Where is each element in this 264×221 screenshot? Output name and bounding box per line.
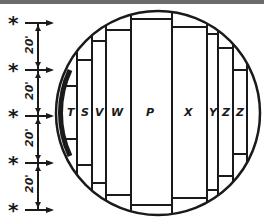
asterisk-icon: * xyxy=(8,151,19,175)
board-label-p: P xyxy=(146,106,154,119)
arrow-right-icon xyxy=(46,160,54,166)
interval-label-4: 20' xyxy=(23,174,36,193)
scale-marker-4 xyxy=(25,160,54,166)
arrow-right-icon xyxy=(46,67,54,73)
arrow-right-icon xyxy=(46,20,54,26)
board-label-v: V xyxy=(95,106,105,119)
board-label-s: S xyxy=(81,106,89,119)
arrow-right-icon xyxy=(46,207,54,213)
board-label-t: T xyxy=(67,106,76,119)
asterisk-icon: * xyxy=(8,11,19,35)
interval-label-2: 20' xyxy=(23,81,36,100)
scale-marker-5 xyxy=(25,207,54,213)
arrow-right-icon xyxy=(46,113,54,119)
board-label-x: X xyxy=(183,106,193,119)
board-label-z2: Z xyxy=(235,106,245,119)
board-label-z1: Z xyxy=(221,106,231,119)
interval-labels: 20' 20' 20' 20' xyxy=(23,35,36,193)
interval-label-3: 20' xyxy=(23,128,36,147)
asterisk-icon: * xyxy=(8,198,19,221)
scale-marker-3 xyxy=(25,113,54,119)
asterisk-icon: * xyxy=(8,58,19,82)
interval-label-1: 20' xyxy=(23,35,36,54)
log-cutting-diagram: * * * * * 20' 20' 20' 20' xyxy=(0,0,264,221)
asterisk-markers: * * * * * xyxy=(8,11,19,221)
scale-marker-1 xyxy=(25,20,54,26)
asterisk-icon: * xyxy=(8,104,19,128)
scale-marker-2 xyxy=(25,67,54,73)
board-label-y: Y xyxy=(209,106,218,119)
board-label-w: W xyxy=(111,106,124,119)
